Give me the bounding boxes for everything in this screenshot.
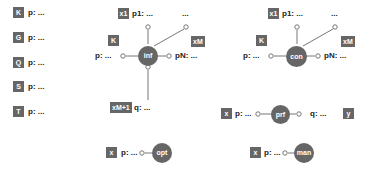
port-label-pn: pN: ... <box>324 51 346 61</box>
tag-g: G <box>13 32 24 43</box>
node-man[interactable]: man <box>294 143 314 163</box>
port-label-p: p: ... <box>95 51 111 61</box>
tag-xm: xM <box>191 36 205 47</box>
tag-q: Q <box>13 57 24 68</box>
tag-x: x <box>250 147 261 158</box>
port-label: p: ... <box>28 82 44 92</box>
port-label: p: ... <box>28 107 44 117</box>
tag-k: K <box>13 7 24 18</box>
tag-s: S <box>13 81 24 92</box>
port-label-p: p: ... <box>264 148 280 158</box>
diagram-wires <box>0 0 367 171</box>
tag-x: x <box>221 108 232 119</box>
tag-y: y <box>343 108 354 119</box>
port-label-p: p: ... <box>235 109 251 119</box>
node-opt[interactable]: opt <box>152 143 172 163</box>
port-label-p: p: ... <box>243 51 259 61</box>
port-label-q: q: ... <box>310 109 326 119</box>
port-label-p1: p1: ... <box>132 9 153 19</box>
node-prf[interactable]: prf <box>271 105 290 124</box>
port-label-q: q: ... <box>134 103 150 113</box>
tag-x1: x1 <box>268 8 279 19</box>
port-label: p: ... <box>28 58 44 68</box>
node-inf[interactable]: inf <box>138 46 158 66</box>
ellipsis-label: ... <box>182 9 189 19</box>
tag-xm-plus-1: xM+1 <box>110 102 132 113</box>
tag-k: K <box>108 35 119 46</box>
tag-xm: xM <box>341 36 355 47</box>
port-label-pn: pN: ... <box>175 51 197 61</box>
port-label-p1: p1: ... <box>282 9 303 19</box>
port-label: p: ... <box>28 33 44 43</box>
node-con[interactable]: con <box>286 46 307 67</box>
ellipsis-label: ... <box>331 9 338 19</box>
tag-k: K <box>256 35 267 46</box>
tag-x1: x1 <box>118 8 129 19</box>
port-label-p: p: ... <box>121 148 137 158</box>
tag-t: T <box>13 106 24 117</box>
port-label: p: ... <box>28 8 44 18</box>
tag-x: x <box>106 147 117 158</box>
